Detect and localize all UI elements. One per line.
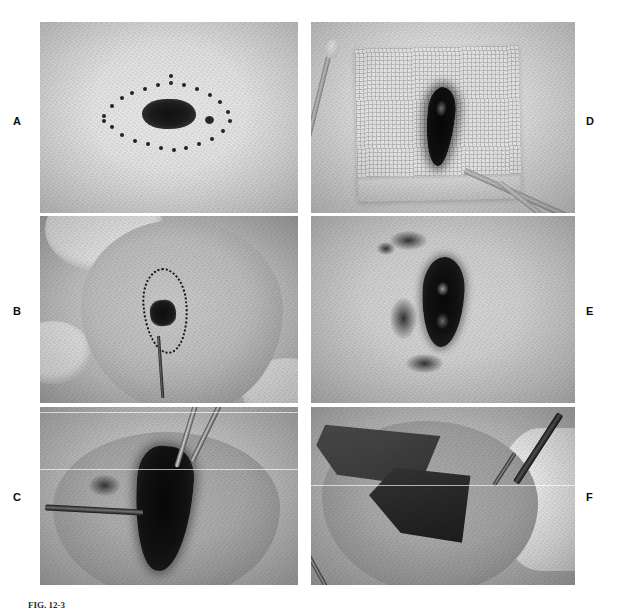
panel-e-photo (311, 216, 575, 403)
panel-a-photo (40, 22, 298, 213)
vignette (40, 22, 298, 213)
panel-label-c: C (13, 492, 21, 503)
panel-label-e: E (586, 306, 594, 317)
vignette (311, 407, 575, 585)
figure-sheet: A D B (0, 0, 617, 612)
panel-f-photo (311, 407, 575, 585)
panel-label-f: F (586, 492, 593, 503)
vignette (40, 407, 298, 585)
panel-label-d: D (586, 116, 594, 127)
panel-c-photo (40, 407, 298, 585)
panel-b-photo (40, 216, 298, 403)
vignette (311, 22, 575, 213)
panel-d-photo (311, 22, 575, 213)
vignette (40, 216, 298, 403)
panel-label-b: B (13, 306, 21, 317)
figure-caption: FIG. 12-3 (28, 600, 148, 612)
panel-label-a: A (13, 116, 21, 127)
vignette (311, 216, 575, 403)
